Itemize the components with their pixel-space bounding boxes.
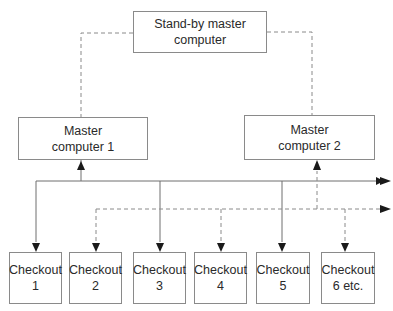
solid-arrowheads: [32, 161, 391, 252]
checkout-1: Checkout 1: [9, 252, 62, 304]
checkout-4: Checkout 4: [194, 252, 247, 304]
checkout-label: Checkout 6 etc.: [322, 262, 375, 294]
dashed-arrowheads: [92, 160, 391, 252]
checkout-label: Checkout 2: [69, 262, 122, 294]
master-computer-2: Master computer 2: [244, 115, 375, 160]
checkout-6: Checkout 6 etc.: [321, 252, 375, 304]
checkout-2: Checkout 2: [69, 252, 122, 304]
dashed-bus: [96, 171, 381, 242]
master-computer-1: Master computer 1: [18, 117, 148, 160]
checkout-label: Checkout 1: [9, 262, 62, 294]
checkout-label: Checkout 3: [133, 262, 186, 294]
checkout-label: Checkout 4: [194, 262, 247, 294]
standby-link-master2: [267, 32, 312, 115]
standby-master-computer: Stand-by master computer: [133, 11, 267, 53]
master1-label: Master computer 1: [52, 123, 115, 155]
checkout-label: Checkout 5: [257, 262, 310, 294]
solid-bus: [36, 160, 383, 242]
standby-link-master1: [81, 33, 133, 117]
checkout-3: Checkout 3: [133, 252, 186, 304]
master2-label: Master computer 2: [278, 122, 341, 154]
standby-label: Stand-by master computer: [154, 16, 246, 48]
checkout-5: Checkout 5: [256, 252, 310, 304]
